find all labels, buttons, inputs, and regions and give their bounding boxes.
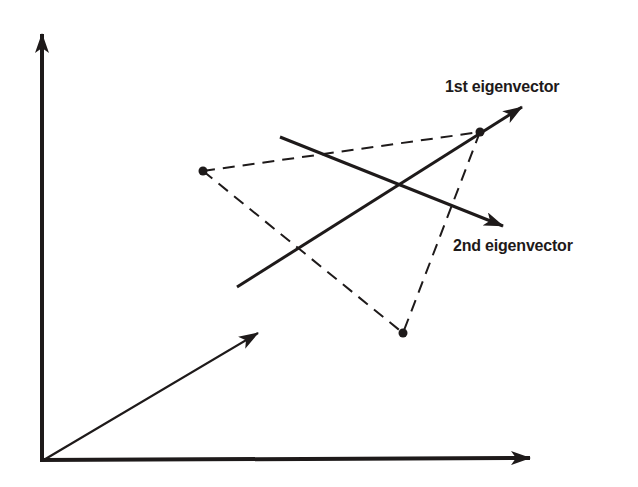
data-point-c (399, 329, 408, 338)
data-point-b (476, 128, 485, 137)
pca-diagram: 1st eigenvector 2nd eigenvector (0, 0, 638, 487)
data-point-a (199, 167, 208, 176)
mean-vector (42, 333, 258, 461)
second-eigenvector (280, 137, 503, 226)
first-eigenvector-label: 1st eigenvector (445, 78, 559, 96)
second-eigenvector-label: 2nd eigenvector (453, 237, 573, 255)
x-axis (40, 458, 530, 460)
